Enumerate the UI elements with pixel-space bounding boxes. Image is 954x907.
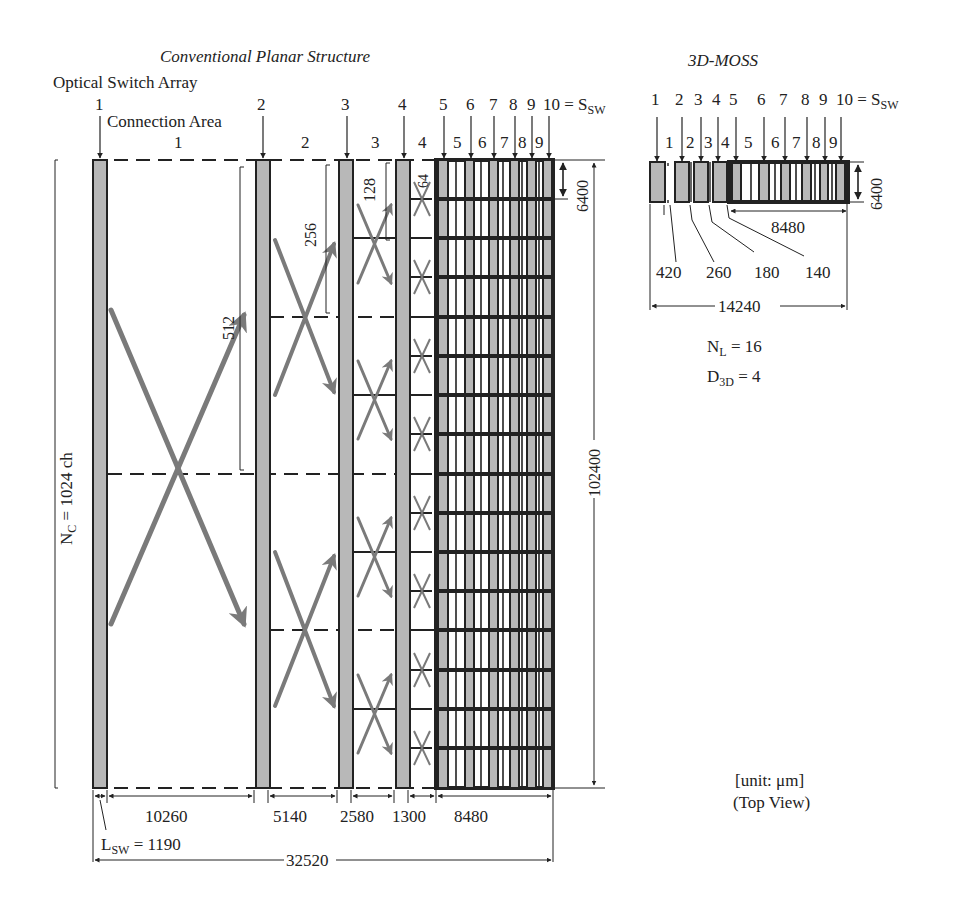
moss-switch-number: 2	[675, 90, 684, 109]
bottom-dimension-labels: 10260 5140 2580 1300 8480 32520	[145, 807, 488, 870]
moss-switch-number: 1	[651, 90, 660, 109]
moss-total-width-label: 14240	[718, 297, 761, 316]
connection-number: 8	[518, 133, 527, 152]
switch-length-label: LSW = 1190	[101, 835, 181, 857]
connection-number: 5	[453, 133, 462, 152]
dim-total-width: 32520	[286, 851, 329, 870]
switch-number: 8	[509, 95, 518, 114]
moss-connection-number: 4	[721, 133, 730, 152]
dim-conn-4: 1300	[392, 807, 426, 826]
connection-area-label: Connection Area	[107, 112, 222, 131]
conventional-grid-block	[436, 160, 553, 788]
moss-connection-numbers: 1 2 3 4 5 6 7 8 9	[665, 133, 838, 152]
switch-array-2	[256, 160, 270, 788]
switch-array-4	[396, 160, 410, 788]
view-label: (Top View)	[733, 793, 810, 812]
span-label-128: 128	[361, 178, 378, 202]
moss-switch-number: 4	[712, 90, 721, 109]
dim-grid-block: 8480	[454, 807, 488, 826]
gap-180: 180	[754, 263, 780, 282]
moss-connection-number: 9	[829, 133, 838, 152]
optical-switch-array-label: Optical Switch Array	[53, 73, 198, 92]
switch-number: 9	[527, 95, 536, 114]
moss-connection-number: 2	[686, 133, 695, 152]
connection-number: 1	[174, 133, 183, 152]
connection-number: 4	[418, 133, 427, 152]
switch-number: 2	[257, 95, 266, 114]
layer-count-label: NL = 16	[707, 337, 762, 359]
moss-connection-number: 6	[771, 133, 780, 152]
dim-conn-1: 10260	[145, 807, 188, 826]
block-height-label: 6400	[574, 180, 591, 212]
moss-diagram: Conventional Planar Structure 3D-MOSS Op…	[0, 0, 954, 907]
span-label-512: 512	[220, 316, 237, 340]
switch-number: 7	[489, 95, 498, 114]
switch-number: 1	[95, 95, 104, 114]
connection-number: 6	[478, 133, 487, 152]
moss-height-label: 6400	[868, 178, 885, 210]
switch-number: 3	[341, 95, 350, 114]
gap-260: 260	[706, 263, 732, 282]
switch-number: 5	[439, 95, 448, 114]
moss-connection-number: 3	[704, 133, 713, 152]
moss-s-sw-label: 10 = SSW	[836, 90, 899, 112]
total-height-label: 102400	[586, 449, 603, 497]
span-label-256: 256	[302, 223, 319, 247]
moss-block-width-label: 8480	[771, 218, 805, 237]
depth-label: D3D = 4	[707, 367, 761, 389]
moss-title: 3D-MOSS	[687, 51, 758, 70]
unit-label: [unit: μm]	[735, 771, 804, 790]
dim-conn-2: 5140	[273, 807, 307, 826]
s-sw-label: 10 = SSW	[543, 95, 606, 117]
span-label-64: 64	[416, 174, 431, 188]
gap-420: 420	[656, 263, 682, 282]
connection-number: 2	[301, 133, 310, 152]
moss-connection-number: 8	[812, 133, 821, 152]
conventional-title: Conventional Planar Structure	[160, 47, 370, 66]
moss-connection-number: 5	[744, 133, 753, 152]
connection-number: 7	[500, 133, 509, 152]
moss-switch-number: 6	[757, 90, 766, 109]
moss-switch-number: 5	[729, 90, 738, 109]
switch-array-3	[339, 160, 353, 788]
moss-switch-number: 9	[819, 90, 828, 109]
switch-number: 4	[398, 95, 407, 114]
channel-count-label: NC = 1024 ch	[57, 452, 79, 545]
moss-switch-number: 8	[801, 90, 810, 109]
dim-conn-3: 2580	[340, 807, 374, 826]
moss-structure	[650, 162, 848, 203]
moss-switch-number: 3	[694, 90, 703, 109]
switch-array-1	[93, 160, 107, 788]
connection-number: 9	[535, 133, 544, 152]
connection-number: 3	[371, 133, 380, 152]
switch-number: 6	[466, 95, 475, 114]
moss-switch-numbers: 1 2 3 4 5 6 7 8 9	[651, 90, 828, 109]
moss-connection-number: 7	[792, 133, 801, 152]
conventional-connection-numbers: 1 2 3 4 5 6 7 8 9	[174, 133, 544, 152]
moss-switch-number: 7	[779, 90, 788, 109]
gap-140: 140	[805, 263, 831, 282]
moss-connection-number: 1	[665, 133, 674, 152]
moss-gap-labels: 420 260 180 140	[656, 263, 831, 282]
